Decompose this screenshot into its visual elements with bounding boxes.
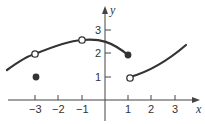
right-curve-piece xyxy=(130,45,186,77)
filled-point-1-2 xyxy=(125,52,132,59)
svg-text:2: 2 xyxy=(148,103,154,115)
open-point-neg3-2 xyxy=(32,51,38,57)
svg-text:2: 2 xyxy=(95,47,101,59)
left-curve-piece xyxy=(7,40,128,70)
open-point-neg1-2.6 xyxy=(79,37,85,43)
y-ticks xyxy=(105,30,111,77)
chart-svg: x y −3 −2 −1 1 2 3 1 2 xyxy=(0,0,205,124)
piecewise-function-graph: x y −3 −2 −1 1 2 3 1 2 xyxy=(0,0,205,124)
open-point-1-1 xyxy=(127,75,133,81)
y-axis-arrow-icon xyxy=(102,6,108,14)
svg-text:1: 1 xyxy=(95,71,101,83)
x-tick-labels: −3 −2 −1 1 2 3 xyxy=(29,103,178,115)
svg-text:−3: −3 xyxy=(29,103,42,115)
y-tick-labels: 1 2 3 xyxy=(95,24,101,83)
svg-text:−1: −1 xyxy=(76,103,89,115)
svg-text:3: 3 xyxy=(172,103,178,115)
y-axis-label: y xyxy=(109,3,116,17)
svg-text:−2: −2 xyxy=(52,103,65,115)
x-axis-label: x xyxy=(195,102,202,116)
filled-point-neg3-1 xyxy=(33,74,40,81)
svg-text:3: 3 xyxy=(95,24,101,36)
svg-text:1: 1 xyxy=(125,103,131,115)
